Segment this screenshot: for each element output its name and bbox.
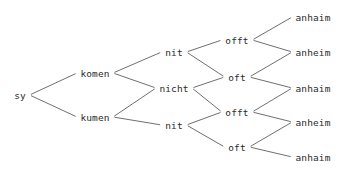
lattice-node-nit: nit xyxy=(165,47,182,58)
lattice-node-nicht: nicht xyxy=(159,83,188,94)
lattice-node-kumen: kumen xyxy=(80,112,109,123)
word-lattice-diagram: sykomenkumennitnichtnitofftoftofftoftanh… xyxy=(0,0,350,179)
lattice-edge xyxy=(114,117,160,125)
lattice-node-offt: offt xyxy=(225,35,248,46)
lattice-node-nit: nit xyxy=(165,120,182,131)
lattice-edge xyxy=(193,89,220,111)
lattice-node-oft: oft xyxy=(228,72,245,83)
lattice-edge xyxy=(193,77,223,87)
lattice-node-anheim: anheim xyxy=(296,47,331,58)
lattice-edge xyxy=(114,73,154,87)
lattice-node-anhaim: anhaim xyxy=(296,83,331,94)
lattice-node-sy: sy xyxy=(14,90,26,101)
lattice-node-anhaim: anhaim xyxy=(296,152,331,163)
lattice-edge xyxy=(254,112,291,121)
lattice-edge xyxy=(251,53,291,76)
lattice-edge xyxy=(31,96,76,117)
lattice-node-anheim: anheim xyxy=(296,117,331,128)
lattice-edge xyxy=(188,113,221,125)
lattice-edge xyxy=(31,74,76,95)
lattice-edge xyxy=(254,40,291,51)
lattice-node-komen: komen xyxy=(80,68,109,79)
lattice-edge xyxy=(251,77,291,87)
lattice-edge xyxy=(251,123,291,146)
lattice-node-offt: offt xyxy=(225,107,248,118)
lattice-edge xyxy=(254,18,291,40)
lattice-node-anhaim: anhaim xyxy=(296,12,331,23)
lattice-edge xyxy=(251,147,291,156)
lattice-edge xyxy=(253,89,290,111)
lattice-edge xyxy=(188,126,224,147)
lattice-edge xyxy=(188,53,224,76)
lattice-edge xyxy=(114,89,155,116)
lattice-edge xyxy=(114,53,160,73)
lattice-node-oft: oft xyxy=(228,142,245,153)
lattice-edge xyxy=(188,40,221,51)
